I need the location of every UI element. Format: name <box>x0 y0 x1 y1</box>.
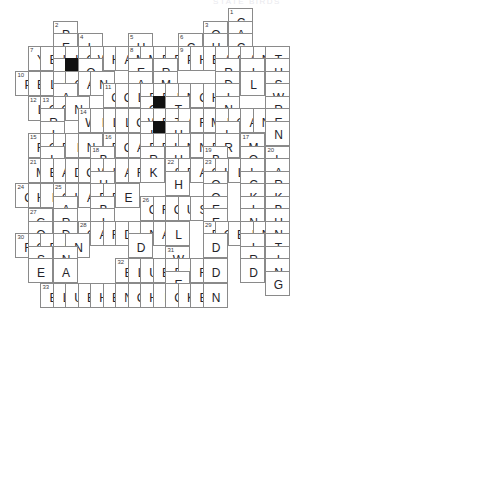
cell-letter: K <box>141 159 166 184</box>
cell-letter: H <box>166 172 191 197</box>
cell-letter: N <box>266 122 291 147</box>
letter-cell[interactable]: D <box>240 258 265 283</box>
letter-cell[interactable]: G <box>265 271 290 296</box>
letter-cell[interactable]: A <box>53 258 78 283</box>
letter-cell[interactable]: L <box>240 71 265 96</box>
letter-cell[interactable]: D <box>203 233 228 258</box>
cell-letter: D <box>241 259 266 284</box>
cell-letter: A <box>54 259 79 284</box>
letter-cell[interactable]: K <box>140 158 165 183</box>
cell-letter: G <box>266 272 291 297</box>
cell-letter: D <box>129 234 154 259</box>
cell-letter: L <box>241 72 266 97</box>
letter-cell[interactable]: E <box>115 183 140 208</box>
cell-letter: D <box>204 259 229 284</box>
letter-cell[interactable]: D <box>128 233 153 258</box>
letter-cell[interactable]: H <box>165 171 190 196</box>
cell-letter: E <box>116 184 141 209</box>
cell-letter: D <box>204 234 229 259</box>
crossword-grid[interactable]: 1C2P3QAE4L5H6CUC7YELLOWHA8MMER9PHEASANTI… <box>0 0 494 481</box>
letter-cell[interactable]: N <box>203 283 228 308</box>
letter-cell[interactable]: D <box>203 258 228 283</box>
letter-cell[interactable]: N <box>265 121 290 146</box>
cell-letter: E <box>29 259 54 284</box>
letter-cell[interactable]: E <box>28 258 53 283</box>
letter-cell[interactable]: L <box>165 221 190 246</box>
cell-letter: L <box>166 222 191 247</box>
cell-letter: N <box>204 284 229 309</box>
